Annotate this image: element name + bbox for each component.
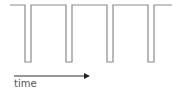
- time-arrow-head-icon: [84, 73, 90, 79]
- time-axis-label: time: [14, 78, 37, 90]
- pulse-waveform: [10, 5, 172, 62]
